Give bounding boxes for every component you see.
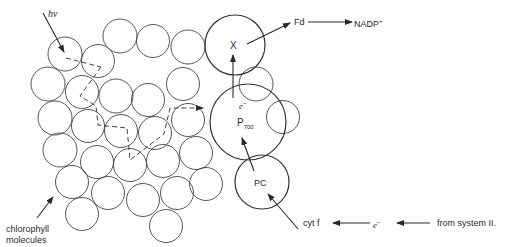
x-to-fd-arrow [247,23,290,44]
p700-label: P700 [237,118,254,130]
x-label: X [230,41,237,51]
nadp-label: NADP+ [354,18,383,29]
photon-label: hv [48,9,57,19]
chlorophyll-label-line1: chlorophyll [6,225,49,234]
chlorophyll-pointer-arrow [37,197,53,218]
cyt-f-label: cyt f [303,219,320,228]
reaction-centers [205,15,289,209]
electron-mid-label: e− [373,219,381,230]
electron-up-label: e− [239,100,247,111]
pc-label: PC [254,179,267,188]
pc-to-p700-arrow [242,138,254,171]
fd-label: Fd [294,18,305,27]
chlorophyll-label-line2: molecules [6,236,47,245]
from-system-label: from system II. [437,219,496,228]
